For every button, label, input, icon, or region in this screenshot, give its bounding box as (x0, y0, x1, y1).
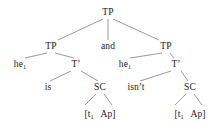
branch-root-to-left-tp (58, 19, 103, 40)
node-right-sc: SC (184, 83, 196, 93)
branch-left-tp-to-subject (25, 53, 47, 58)
node-right-aux: isn’t (127, 83, 144, 93)
left-predicate-text: Ap (101, 109, 113, 119)
node-root-tp: TP (102, 8, 113, 18)
node-left-subject: he1 (14, 60, 26, 70)
syntax-tree-figure: TP and TP he1 T’ is SC [t1Ap] TP he1 T’ … (0, 0, 217, 125)
node-left-tbar: T’ (71, 60, 80, 70)
branch-root-to-right-tp (113, 19, 159, 40)
right-close-bracket: ] (202, 109, 205, 119)
node-left-sc: SC (94, 83, 106, 93)
branch-left-tbar-to-aux (50, 71, 71, 81)
branch-right-tp-to-subject (130, 53, 162, 58)
left-close-bracket: ] (112, 109, 115, 119)
tree-branch-lines (0, 0, 217, 125)
node-left-aux: is (45, 83, 52, 93)
right-trace-index: 1 (180, 113, 183, 120)
branch-right-tbar-to-sc (181, 71, 188, 81)
branch-right-tp-to-tbar (170, 53, 174, 58)
node-conjunction-and: and (101, 42, 115, 52)
node-right-subject: he1 (119, 60, 131, 70)
node-right-terminal: [t1Ap] (174, 110, 205, 120)
left-subject-index: 1 (23, 63, 26, 70)
branch-left-sc-to-predicate (104, 94, 112, 105)
branch-right-tbar-to-aux (140, 71, 171, 81)
branch-left-tp-to-tbar (55, 53, 74, 58)
branch-right-sc-to-predicate (194, 94, 202, 105)
branch-left-tbar-to-sc (81, 71, 98, 81)
right-subject-text: he (119, 59, 128, 69)
left-trace-index: 1 (90, 113, 93, 120)
right-predicate-text: Ap (191, 109, 203, 119)
node-right-tbar: T’ (171, 60, 180, 70)
branch-right-sc-to-trace (175, 94, 186, 105)
left-subject-text: he (14, 59, 23, 69)
right-subject-index: 1 (128, 63, 131, 70)
node-left-terminal: [t1Ap] (84, 110, 115, 120)
node-right-tp: TP (160, 42, 171, 52)
branch-left-sc-to-trace (85, 94, 96, 105)
node-left-tp: TP (45, 42, 56, 52)
